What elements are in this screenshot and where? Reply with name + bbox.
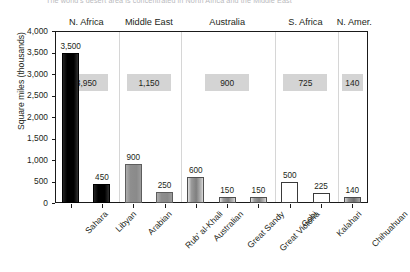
bar-gobi <box>281 182 298 204</box>
region-total-value: 900 <box>220 78 234 88</box>
region-total-value: 725 <box>298 78 312 88</box>
x-axis-tick-mark <box>321 204 322 208</box>
x-axis-tick-mark <box>196 204 197 208</box>
bar-arabian <box>125 164 142 203</box>
bar-value-label: 450 <box>82 173 122 182</box>
x-axis-tick-mark <box>258 204 259 208</box>
region-total-value: 1,150 <box>138 78 159 88</box>
y-axis-tick-mark <box>52 31 55 32</box>
x-axis-tick-mark <box>71 204 72 208</box>
region-total-box: 725 <box>283 74 327 91</box>
x-axis-tick-mark <box>352 204 353 208</box>
bar-value-label: 900 <box>113 153 153 162</box>
region-header-middle-east: Middle East <box>118 15 181 29</box>
x-axis-label-arabian: Arabian <box>146 209 174 237</box>
bar-value-label: 250 <box>145 181 185 190</box>
y-axis-title: Square miles (thousands) <box>16 6 26 156</box>
region-header-row: N. AfricaMiddle EastAustraliaS. AfricaN.… <box>55 15 368 29</box>
y-axis-tick-mark <box>52 117 55 118</box>
x-axis-label-chihuahuan: Chihuahuan <box>370 209 410 249</box>
region-header-australia: Australia <box>180 15 274 29</box>
y-axis-tick-mark <box>52 53 55 54</box>
y-axis-tick-label: 500 <box>2 176 48 186</box>
bar-value-label: 140 <box>332 186 372 195</box>
x-axis-tick-mark <box>290 204 291 208</box>
bar-value-label: 500 <box>270 171 310 180</box>
y-axis-tick-mark <box>52 139 55 140</box>
region-divider <box>181 32 182 202</box>
region-header-n-amer: N. Amer. <box>337 15 368 29</box>
x-axis-label-libyan: Libyan <box>113 209 138 234</box>
x-axis-label-kalahari: Kalahari <box>334 209 363 238</box>
bar-kalahari <box>313 193 330 203</box>
y-axis-tick-mark <box>52 203 55 204</box>
bar-great-sandy <box>219 197 236 203</box>
bar-value-label: 600 <box>176 166 216 175</box>
bar-australian <box>187 177 204 203</box>
region-total-box: 1,150 <box>127 74 171 91</box>
bar-rub-al-khali <box>156 192 173 203</box>
region-header-s-africa: S. Africa <box>274 15 337 29</box>
bar-sahara <box>62 53 79 204</box>
x-axis-tick-mark <box>227 204 228 208</box>
bar-chihuahuan <box>344 197 361 203</box>
region-total-value: 140 <box>345 78 359 88</box>
y-axis-tick-mark <box>52 160 55 161</box>
x-axis-tick-mark <box>165 204 166 208</box>
bar-great-victoria <box>250 197 267 203</box>
x-axis-tick-mark <box>133 204 134 208</box>
y-axis-tick-mark <box>52 182 55 183</box>
bar-value-label: 3,500 <box>51 42 91 51</box>
y-axis-tick-mark <box>52 74 55 75</box>
bar-libyan <box>93 184 110 203</box>
y-axis-tick-label: 0 <box>2 198 48 208</box>
region-total-box: 900 <box>205 74 249 91</box>
x-axis-tick-mark <box>102 204 103 208</box>
region-divider <box>338 32 339 202</box>
clipped-caption: The world's desert area is concentrated … <box>46 0 376 6</box>
x-axis-label-sahara: Sahara <box>83 209 110 236</box>
y-axis-tick-label: 1,000 <box>2 155 48 165</box>
region-total-box: 140 <box>342 74 363 91</box>
region-header-n-africa: N. Africa <box>55 15 118 29</box>
y-axis-tick-mark <box>52 96 55 97</box>
bar-value-label: 150 <box>238 186 278 195</box>
